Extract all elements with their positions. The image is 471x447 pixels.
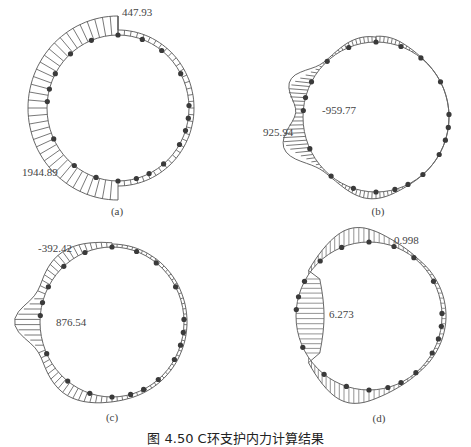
panel-a-label: (a) <box>111 205 124 218</box>
panel-d-annotation-top: 0.998 <box>394 234 419 246</box>
panel-b-annotation-upper: -959.77 <box>322 104 356 116</box>
panel-a-annotation-top: 447.93 <box>122 6 153 18</box>
panel-b-label: (b) <box>372 205 385 218</box>
panel-c-force-outline <box>15 242 187 402</box>
panel-c-annotation-upper: -392.42 <box>38 242 72 254</box>
panel-b-annotation-lower: 925.94 <box>263 126 294 138</box>
panel-d-annotation-left: 6.273 <box>329 308 354 320</box>
panel-d-label: (d) <box>373 412 386 425</box>
panel-c: -392.42 876.54 (c) <box>15 242 187 424</box>
panel-b-ring <box>303 42 449 192</box>
panel-c-hatching <box>15 242 187 402</box>
panel-c-annotation-left: 876.54 <box>56 316 87 328</box>
figure-caption: 图 4.50 C环支护内力计算结果 <box>0 428 471 447</box>
panel-d-displacement-arrows <box>296 228 446 404</box>
panel-a: 447.93 1944.89 (a) <box>22 6 194 218</box>
panel-a-ring <box>47 35 189 181</box>
panel-a-annotation-left: 1944.89 <box>22 166 58 178</box>
panel-d-ring <box>296 242 442 390</box>
panel-c-label: (c) <box>106 411 119 424</box>
panel-b: -959.77 925.94 (b) <box>263 36 452 218</box>
panel-d: 0.998 6.273 (d) <box>294 228 446 426</box>
